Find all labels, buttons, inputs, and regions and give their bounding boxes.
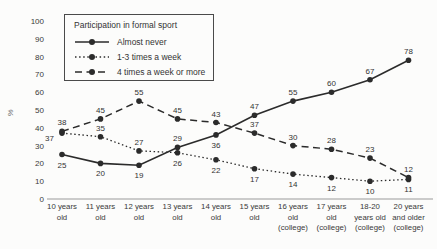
data-label-4-times-a-week-or-more: 43: [212, 110, 221, 119]
data-label-4-times-a-week-or-more: 55: [135, 88, 144, 97]
data-label-almost-never: 25: [58, 161, 67, 170]
data-label-almost-never: 67: [366, 67, 375, 76]
data-label-4-times-a-week-or-more: 12: [404, 165, 413, 174]
data-point-almost-never: [213, 132, 219, 138]
x-category-label: 13 years: [163, 202, 193, 211]
x-category-label: (college): [394, 223, 424, 232]
x-category-label: 20 years: [394, 202, 424, 211]
y-tick-label: 20: [35, 159, 44, 168]
data-label-1-3-times-a-week: 27: [135, 138, 144, 147]
legend-item-almost-never: Almost never: [74, 34, 213, 49]
x-category-label: old: [95, 213, 105, 222]
data-point-4-times-a-week-or-more: [59, 129, 65, 135]
y-tick-label: 30: [35, 142, 44, 151]
x-category-label: and older: [392, 213, 425, 222]
data-label-1-3-times-a-week: 12: [327, 184, 336, 193]
x-category-label: old: [172, 213, 182, 222]
data-label-almost-never: 20: [96, 169, 105, 178]
data-label-4-times-a-week-or-more: 45: [96, 106, 105, 115]
data-point-4-times-a-week-or-more: [367, 155, 373, 161]
data-label-4-times-a-week-or-more: 38: [58, 118, 67, 127]
data-point-almost-never: [406, 57, 412, 63]
data-label-4-times-a-week-or-more: 37: [250, 120, 259, 129]
x-category-label: old: [134, 213, 144, 222]
legend-item-1-3-times: 1-3 times a week: [74, 49, 213, 64]
x-category-label: 10 years: [47, 202, 77, 211]
data-point-almost-never: [136, 162, 142, 168]
data-point-1-3-times-a-week: [367, 178, 373, 184]
y-tick-label: 80: [35, 53, 44, 62]
data-point-4-times-a-week-or-more: [175, 116, 181, 122]
x-category-label: old: [249, 213, 259, 222]
data-point-1-3-times-a-week: [136, 148, 142, 154]
x-category-label: 17 years: [317, 202, 347, 211]
data-point-1-3-times-a-week: [329, 175, 335, 181]
data-point-almost-never: [252, 113, 258, 119]
data-point-almost-never: [175, 145, 181, 151]
y-axis-label: %: [6, 109, 15, 116]
chart-figure: 0102030405060708090100%10 yearsold11 yea…: [0, 0, 437, 249]
data-label-4-times-a-week-or-more: 45: [173, 106, 182, 115]
data-point-4-times-a-week-or-more: [290, 143, 296, 149]
y-tick-label: 70: [35, 70, 44, 79]
data-label-1-3-times-a-week: 35: [96, 124, 105, 133]
data-point-almost-never: [367, 77, 373, 83]
y-tick-label: 90: [35, 35, 44, 44]
data-label-1-3-times-a-week: 37: [45, 134, 54, 143]
data-label-1-3-times-a-week: 10: [366, 187, 375, 196]
data-point-almost-never: [98, 161, 104, 167]
data-label-4-times-a-week-or-more: 30: [289, 133, 298, 142]
data-point-1-3-times-a-week: [98, 134, 104, 140]
x-category-label: 11 years: [86, 202, 115, 211]
legend-item-4-times: 4 times a week or more: [74, 64, 213, 79]
y-tick-label: 0: [40, 195, 45, 204]
x-category-label: (college): [317, 223, 347, 232]
data-point-almost-never: [59, 152, 65, 158]
data-point-1-3-times-a-week: [252, 166, 258, 172]
legend-line-dotted-icon: [74, 52, 110, 62]
data-label-almost-never: 55: [289, 88, 298, 97]
legend: Participation in formal sport Almost nev…: [64, 14, 214, 81]
legend-label-almost-never: Almost never: [117, 37, 167, 47]
x-category-label: (college): [278, 223, 308, 232]
data-label-4-times-a-week-or-more: 23: [366, 145, 375, 154]
data-point-1-3-times-a-week: [213, 157, 219, 163]
y-tick-label: 10: [35, 177, 44, 186]
x-category-label: old: [211, 213, 221, 222]
data-point-almost-never: [329, 89, 335, 95]
y-tick-label: 60: [35, 88, 44, 97]
data-point-4-times-a-week-or-more: [252, 130, 258, 136]
x-category-label: old: [288, 213, 298, 222]
data-label-1-3-times-a-week: 26: [173, 159, 182, 168]
data-point-4-times-a-week-or-more: [98, 116, 104, 122]
data-label-almost-never: 60: [327, 79, 336, 88]
y-tick-label: 100: [31, 17, 45, 26]
y-tick-label: 50: [35, 106, 44, 115]
series-line-1-3-times-a-week: [62, 133, 409, 181]
data-label-almost-never: 36: [212, 141, 221, 150]
legend-label-1-3-times: 1-3 times a week: [117, 52, 181, 62]
data-point-4-times-a-week-or-more: [329, 146, 335, 152]
x-category-label: 15 years: [240, 202, 270, 211]
series-line-4-times-a-week-or-more: [62, 101, 409, 178]
data-label-almost-never: 47: [250, 102, 259, 111]
x-category-label: old: [57, 213, 67, 222]
data-label-almost-never: 29: [173, 134, 182, 143]
legend-label-4-times: 4 times a week or more: [117, 67, 205, 77]
data-label-1-3-times-a-week: 11: [404, 185, 413, 194]
data-point-1-3-times-a-week: [290, 171, 296, 177]
data-point-1-3-times-a-week: [175, 150, 181, 156]
y-tick-label: 40: [35, 124, 44, 133]
data-label-almost-never: 78: [404, 47, 413, 56]
data-point-almost-never: [290, 98, 296, 104]
data-point-4-times-a-week-or-more: [213, 120, 219, 126]
data-label-almost-never: 19: [135, 171, 144, 180]
x-category-label: (college): [355, 223, 385, 232]
chart-title: Participation in formal sport: [74, 20, 213, 30]
legend-line-dashed-icon: [74, 67, 110, 77]
x-category-label: 12 years: [124, 202, 154, 211]
x-category-label: years old: [354, 213, 386, 222]
legend-line-solid-icon: [74, 37, 110, 47]
data-label-1-3-times-a-week: 14: [289, 180, 298, 189]
x-category-label: 14 years: [201, 202, 231, 211]
